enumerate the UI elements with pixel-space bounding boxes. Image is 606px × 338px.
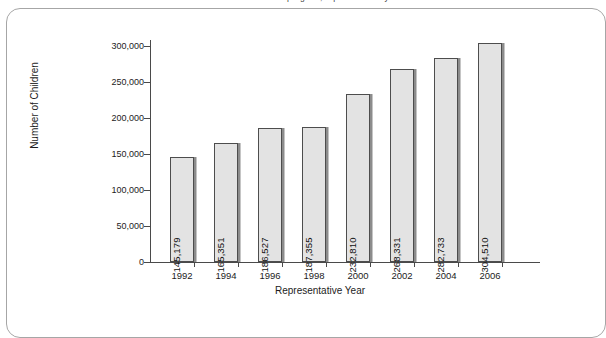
x-axis-tick-label: 1994 xyxy=(204,270,248,281)
y-axis-tick xyxy=(144,262,150,263)
x-axis-tick-label: 1996 xyxy=(248,270,292,281)
bar-value-label: 186,527 xyxy=(259,237,270,272)
y-axis-tick xyxy=(144,154,150,155)
y-axis-tick xyxy=(144,46,150,47)
x-axis-tick xyxy=(370,262,371,267)
bar-value-label: 232,810 xyxy=(347,237,358,272)
y-axis-tick-label: 200,000 xyxy=(86,113,144,123)
bar[interactable]: 165,351 xyxy=(214,143,238,262)
x-axis-title: Representative Year xyxy=(150,285,490,296)
y-axis-line xyxy=(150,40,151,262)
x-axis-tick xyxy=(194,262,195,267)
x-axis-tick xyxy=(282,262,283,267)
bar[interactable]: 186,527 xyxy=(258,128,282,262)
y-axis-tick-label: 250,000 xyxy=(86,77,144,87)
bar-value-label: 165,351 xyxy=(215,237,226,272)
x-axis-tick-label: 2004 xyxy=(424,270,468,281)
bar-value-label: 145,179 xyxy=(171,237,182,272)
x-axis-tick xyxy=(238,262,239,267)
bar-value-label: 304,510 xyxy=(479,237,490,272)
y-axis-tick-label: 150,000 xyxy=(86,149,144,159)
bar-value-label: 187,355 xyxy=(303,237,314,272)
bar[interactable]: 268,331 xyxy=(390,69,414,262)
y-axis-tick xyxy=(144,118,150,119)
y-axis-tick xyxy=(144,226,150,227)
x-axis-tick xyxy=(326,262,327,267)
x-axis-tick xyxy=(414,262,415,267)
y-axis-tick-label: 0 xyxy=(86,257,144,267)
x-axis-tick xyxy=(458,262,459,267)
bar-value-label: 268,331 xyxy=(391,237,402,272)
y-axis-tick xyxy=(144,190,150,191)
bar[interactable]: 282,733 xyxy=(434,58,458,262)
x-axis-tick-label: 2006 xyxy=(468,270,512,281)
bar-value-label: 282,733 xyxy=(435,237,446,272)
x-axis-tick-label: 1998 xyxy=(292,270,336,281)
x-axis-tick-label: 1992 xyxy=(160,270,204,281)
x-axis-tick xyxy=(502,262,503,267)
x-axis-tick-label: 2002 xyxy=(380,270,424,281)
y-axis-tick-label: 300,000 xyxy=(86,41,144,51)
bar[interactable]: 304,510 xyxy=(478,43,502,262)
bar[interactable]: 232,810 xyxy=(346,94,370,262)
bar[interactable]: 187,355 xyxy=(302,127,326,262)
y-axis-title: Number of Children xyxy=(29,36,40,176)
bar[interactable]: 145,179 xyxy=(170,157,194,262)
y-axis-tick-label: 100,000 xyxy=(86,185,144,195)
x-axis-tick-label: 2000 xyxy=(336,270,380,281)
y-axis-tick xyxy=(144,82,150,83)
y-axis-tick-label: 50,000 xyxy=(86,221,144,231)
